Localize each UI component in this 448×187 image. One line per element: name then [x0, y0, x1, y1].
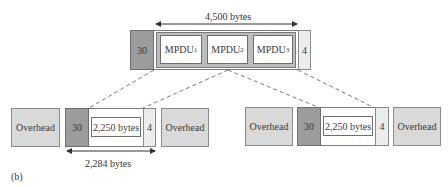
mpdu-1: MPDU1 [160, 35, 202, 64]
right-fragment-payload: 2,250 bytes [323, 116, 373, 136]
right-overhead-before: Overhead [245, 107, 293, 146]
left-overhead-before: Overhead [11, 108, 60, 147]
aggregate-header: 30 [130, 30, 154, 70]
left-overhead-after: Overhead [161, 108, 209, 147]
top-span-label: 4,500 bytes [200, 11, 256, 22]
aggregate-trailer: 4 [298, 30, 311, 70]
right-fragment-trailer: 4 [375, 107, 389, 146]
mpdu-2: MPDU2 [207, 35, 248, 64]
mpdu-3: MPDU3 [253, 35, 293, 64]
right-overhead-after: Overhead [393, 107, 441, 146]
connector-lines [0, 0, 448, 187]
right-fragment-header: 30 [297, 107, 321, 146]
bottom-span-label: 2,284 bytes [80, 158, 136, 169]
left-fragment-header: 30 [65, 108, 89, 147]
figure-label: (b) [11, 171, 23, 182]
left-fragment-trailer: 4 [143, 108, 156, 147]
left-fragment-payload: 2,250 bytes [91, 117, 141, 137]
